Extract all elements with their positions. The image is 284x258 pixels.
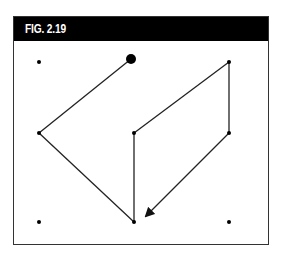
dot-bottom-middle — [132, 220, 136, 224]
start-dot — [126, 54, 136, 64]
dot-top-right — [227, 60, 231, 64]
dot-path-diagram — [0, 0, 284, 258]
dot-bottom-right — [227, 220, 231, 224]
path-segment — [39, 59, 131, 133]
dot-middle-right — [227, 131, 231, 135]
dot-top-left — [37, 60, 41, 64]
dot-middle-left — [37, 131, 41, 135]
dot-bottom-left — [37, 220, 41, 224]
dot-middle-center — [132, 131, 136, 135]
path-segment — [134, 62, 229, 133]
arrow-segment — [146, 133, 229, 216]
path-segment — [39, 133, 134, 222]
path-lines — [39, 59, 229, 222]
